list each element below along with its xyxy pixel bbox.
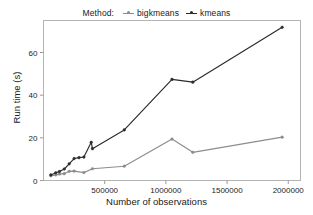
data-point-kmeans	[73, 157, 76, 160]
data-point-bigkmeans	[171, 138, 174, 141]
y-tick-label: 0	[33, 177, 38, 186]
data-point-bigkmeans	[91, 167, 94, 170]
data-point-kmeans	[63, 168, 66, 171]
y-tick-label: 40	[29, 91, 38, 100]
plot-frame	[44, 21, 301, 181]
y-tick-label: 20	[29, 134, 38, 143]
data-point-kmeans	[49, 174, 52, 177]
data-point-kmeans	[54, 171, 57, 174]
data-point-kmeans	[83, 156, 86, 159]
data-point-kmeans	[281, 26, 284, 29]
data-point-kmeans	[90, 141, 93, 144]
data-point-bigkmeans	[123, 165, 126, 168]
data-point-bigkmeans	[63, 172, 66, 175]
x-axis-title: Number of observations	[0, 196, 313, 207]
y-axis-title: Run time (s)	[11, 38, 22, 158]
y-tick-label: 60	[29, 49, 38, 58]
data-point-bigkmeans	[73, 170, 76, 173]
x-tick-label: 500000	[91, 186, 118, 195]
chart-figure: Method: bigkmeans kmeans 500000100000015…	[0, 0, 313, 215]
data-point-kmeans	[78, 156, 81, 159]
plot-area: 5000001000000150000020000000204060	[0, 0, 313, 215]
x-tick-label: 1000000	[150, 186, 182, 195]
data-point-bigkmeans	[191, 151, 194, 154]
data-point-kmeans	[68, 163, 71, 166]
data-point-bigkmeans	[58, 173, 61, 176]
data-point-bigkmeans	[68, 170, 71, 173]
data-point-kmeans	[171, 78, 174, 81]
data-point-bigkmeans	[281, 136, 284, 139]
data-point-kmeans	[58, 170, 61, 173]
data-point-kmeans	[191, 81, 194, 84]
x-tick-label: 2000000	[273, 186, 305, 195]
data-point-bigkmeans	[83, 171, 86, 174]
data-point-kmeans	[91, 147, 94, 150]
data-point-kmeans	[123, 129, 126, 132]
x-tick-label: 1500000	[211, 186, 243, 195]
series-line-kmeans	[51, 27, 282, 175]
series-line-bigkmeans	[51, 137, 282, 176]
